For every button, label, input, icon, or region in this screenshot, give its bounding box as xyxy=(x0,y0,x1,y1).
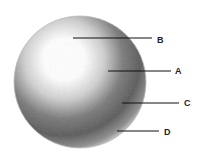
callout-label-b: B xyxy=(157,36,164,45)
callout-label-d: D xyxy=(164,128,171,137)
sphere-shading-diagram: BACD xyxy=(0,0,205,159)
callout-label-a: A xyxy=(175,67,182,76)
callout-label-c: C xyxy=(184,99,191,108)
sphere-illustration xyxy=(0,0,205,159)
